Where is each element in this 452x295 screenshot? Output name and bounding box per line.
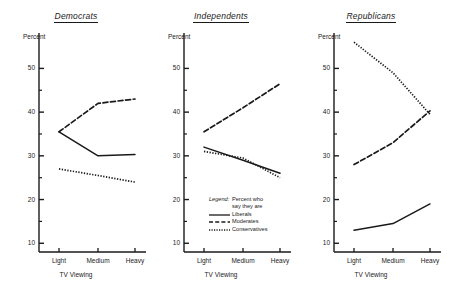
panel-title-republicans: Republicans xyxy=(296,11,446,21)
x-tick-label: Light xyxy=(39,257,79,264)
series-line-conservatives xyxy=(59,169,135,182)
series-line-liberals xyxy=(204,147,280,173)
panel-title-independents: Independents xyxy=(146,11,296,21)
legend-item-liberals: Liberals xyxy=(209,211,295,218)
plot-area-democrats xyxy=(1,0,151,295)
legend-swatch-dashed-icon xyxy=(209,218,230,225)
legend-item-label: Conservatives xyxy=(232,226,295,233)
series-line-liberals xyxy=(354,204,430,230)
y-tick-label: 20 xyxy=(314,196,330,203)
legend-swatch-dotted-icon xyxy=(209,226,230,233)
y-tick-label: 10 xyxy=(19,239,35,246)
panel-independents: Independents Percent TV Viewing Legend: … xyxy=(146,0,296,295)
y-tick-label: 10 xyxy=(164,239,180,246)
x-tick-label: Heavy xyxy=(260,257,300,264)
y-tick-label: 10 xyxy=(314,239,330,246)
series-line-moderates xyxy=(354,111,430,165)
y-tick-label: 20 xyxy=(19,196,35,203)
plot-area-republicans xyxy=(296,0,446,295)
legend-swatch-solid-icon xyxy=(209,211,230,218)
y-tick-label: 40 xyxy=(19,108,35,115)
series-line-moderates xyxy=(59,99,135,132)
x-tick-label: Medium xyxy=(223,257,263,264)
x-tick-label: Medium xyxy=(373,257,413,264)
panel-democrats: Democrats Percent TV Viewing 1020304050L… xyxy=(1,0,151,295)
legend-title-line2: say they are xyxy=(232,203,295,210)
legend-item-label: Liberals xyxy=(232,211,295,218)
y-axis-label: Percent xyxy=(168,33,190,40)
panel-title-democrats: Democrats xyxy=(1,11,151,21)
legend-heading: Legend: Percent who xyxy=(209,196,295,203)
legend-title-line1: Percent who xyxy=(232,196,295,203)
legend-item-moderates: Moderates xyxy=(209,218,295,225)
x-tick-label: Light xyxy=(334,257,374,264)
y-tick-label: 30 xyxy=(314,152,330,159)
series-line-conservatives xyxy=(204,151,280,177)
y-tick-label: 50 xyxy=(19,64,35,71)
panel-republicans: Republicans Percent TV Viewing 102030405… xyxy=(296,0,446,295)
y-tick-label: 30 xyxy=(164,152,180,159)
series-line-moderates xyxy=(204,84,280,132)
chart-figure: Democrats Percent TV Viewing 1020304050L… xyxy=(0,0,452,295)
legend-item-conservatives: Conservatives xyxy=(209,226,295,233)
y-tick-label: 50 xyxy=(314,64,330,71)
legend-item-label: Moderates xyxy=(232,218,295,225)
x-axis-label: TV Viewing xyxy=(146,271,296,278)
x-tick-label: Light xyxy=(184,257,224,264)
legend-label: Legend: xyxy=(209,196,232,203)
x-tick-label: Medium xyxy=(78,257,118,264)
chart-legend: Legend: Percent who say they are Liberal… xyxy=(209,196,295,233)
series-line-liberals xyxy=(59,132,135,156)
x-tick-label: Heavy xyxy=(410,257,450,264)
series-line-conservatives xyxy=(354,42,430,114)
y-axis-label: Percent xyxy=(23,33,45,40)
y-axis-label: Percent xyxy=(318,33,340,40)
y-tick-label: 50 xyxy=(164,64,180,71)
y-tick-label: 30 xyxy=(19,152,35,159)
x-axis-label: TV Viewing xyxy=(1,271,151,278)
x-axis-label: TV Viewing xyxy=(296,271,446,278)
y-tick-label: 40 xyxy=(164,108,180,115)
y-tick-label: 20 xyxy=(164,196,180,203)
y-tick-label: 40 xyxy=(314,108,330,115)
plot-area-independents xyxy=(146,0,296,295)
